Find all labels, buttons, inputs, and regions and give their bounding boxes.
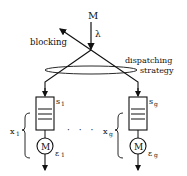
server-1: M s 1 ε 1 x 1 <box>10 97 65 170</box>
arrival-rate-label: λ <box>95 29 101 39</box>
ellipsis: · · · <box>67 125 96 135</box>
server-g: M s g ε g x g <box>103 97 158 170</box>
queue-label: s <box>56 97 60 106</box>
rate-label: ε <box>148 149 152 158</box>
queue-sub: g <box>154 100 158 108</box>
dispatch-label-line2: strategy <box>140 66 174 75</box>
count-sub: 1 <box>16 130 20 137</box>
count-sub: g <box>109 130 113 138</box>
queue-sub: 1 <box>61 100 65 107</box>
count-brace <box>22 113 30 158</box>
rate-sub: 1 <box>61 151 65 158</box>
server-label: M <box>134 142 143 152</box>
blocking-label: blocking <box>30 37 67 47</box>
count-label: x <box>10 127 15 136</box>
queueing-diagram: M λ blocking dispatching strategy M s 1 … <box>0 0 187 176</box>
server-label: M <box>41 142 50 152</box>
source-label: M <box>88 10 98 21</box>
rate-sub: g <box>154 151 158 159</box>
rate-label: ε <box>55 149 59 158</box>
dispatch-label-line1: dispatching <box>125 56 172 65</box>
queue-label: s <box>149 97 153 106</box>
count-brace <box>115 113 123 158</box>
dispatch-ellipse <box>45 66 137 74</box>
count-label: x <box>103 127 108 136</box>
